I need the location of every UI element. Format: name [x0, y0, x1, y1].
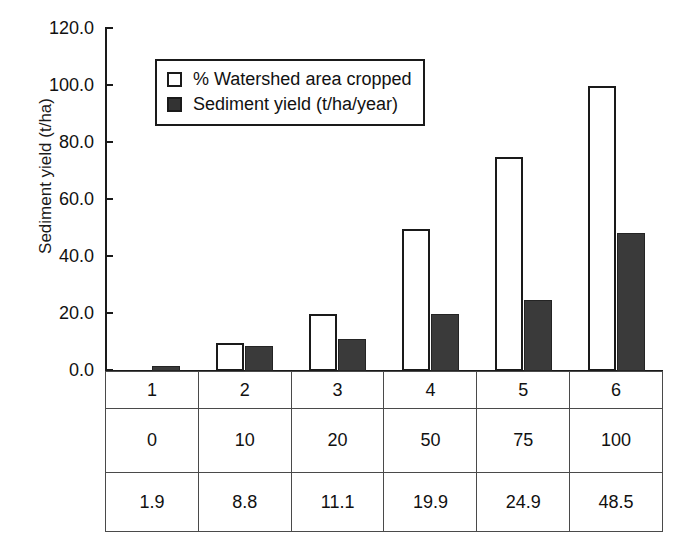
bar-sediment-yield [524, 300, 552, 371]
y-axis-tick-label: 80.0 [20, 133, 94, 151]
data-table: 1234560102050751001.98.811.119.924.948.5 [105, 371, 663, 532]
legend-item-label: % Watershed area cropped [193, 69, 411, 90]
bar-percent-cropped [309, 314, 337, 371]
legend-item-label: Sediment yield (t/ha/year) [193, 94, 398, 115]
chart-figure: Sediment yield (t/ha) 120.0100.080.060.0… [0, 0, 679, 555]
percent-cropped-row: 010205075100 [106, 409, 663, 473]
y-axis-tick-label: 100.0 [20, 76, 94, 94]
table-cell: 2 [198, 372, 291, 409]
bar-group [570, 28, 663, 371]
table-cell: 20 [291, 409, 384, 473]
table-cell: 1 [106, 372, 199, 409]
table-cell: 4 [384, 372, 477, 409]
table-cell: 100 [570, 409, 663, 473]
y-axis-tick-label: 120.0 [20, 19, 94, 37]
table-cell: 8.8 [198, 473, 291, 532]
table-cell: 3 [291, 372, 384, 409]
table-cell: 50 [384, 409, 477, 473]
y-axis-tick-label: 0.0 [20, 361, 94, 379]
table-cell: 11.1 [291, 473, 384, 532]
sediment-yield-row: 1.98.811.119.924.948.5 [106, 473, 663, 532]
table-cell: 48.5 [570, 473, 663, 532]
bar-percent-cropped [402, 229, 430, 372]
y-axis-tick-label: 20.0 [20, 304, 94, 322]
y-axis-tick-labels: 120.0100.080.060.040.020.00.0 [16, 0, 94, 555]
open-square-icon [167, 72, 182, 87]
bar-sediment-yield [338, 339, 366, 371]
legend-item: Sediment yield (t/ha/year) [167, 92, 411, 117]
legend-item: % Watershed area cropped [167, 67, 411, 92]
y-axis-tick-label: 60.0 [20, 190, 94, 208]
chart-legend: % Watershed area croppedSediment yield (… [155, 59, 425, 126]
table-cell: 19.9 [384, 473, 477, 532]
category-row: 123456 [106, 372, 663, 409]
table-cell: 5 [477, 372, 570, 409]
table-cell: 6 [570, 372, 663, 409]
table-cell: 1.9 [106, 473, 199, 532]
filled-square-icon [167, 97, 182, 112]
table-cell: 75 [477, 409, 570, 473]
bar-percent-cropped [588, 86, 616, 371]
table-cell: 10 [198, 409, 291, 473]
y-axis-tick-label: 40.0 [20, 247, 94, 265]
bar-sediment-yield [431, 314, 459, 371]
bar-sediment-yield [245, 346, 273, 371]
table-cell: 0 [106, 409, 199, 473]
bar-group [477, 28, 570, 371]
bar-percent-cropped [495, 157, 523, 371]
bar-sediment-yield [617, 233, 645, 371]
table-cell: 24.9 [477, 473, 570, 532]
bar-percent-cropped [216, 343, 244, 372]
